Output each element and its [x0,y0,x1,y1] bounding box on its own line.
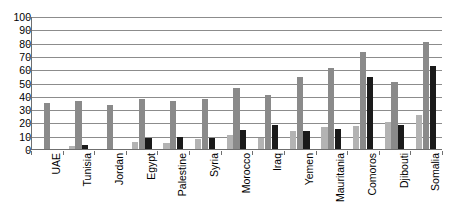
bar [430,66,436,150]
x-axis-tick-label: Tunisia [82,153,93,186]
x-axis-tick-label: Somalia [430,153,441,191]
bar-group [126,17,158,150]
x-axis-tick-mark [252,151,253,155]
x-axis-tick-mark [410,151,411,155]
bar [335,129,341,150]
plot-area [31,17,442,150]
bar-chart: 0102030405060708090100 UAETunisiaJordanE… [0,0,450,214]
bar-group [410,17,442,150]
x-axis-tick-mark [316,151,317,155]
bar-group [221,17,253,150]
bar [398,125,404,150]
bar [209,138,215,150]
bar [44,103,50,150]
bar [321,127,327,150]
bar [265,95,271,150]
x-axis-tick-mark [94,151,95,155]
x-axis-tick-mark [126,151,127,155]
bar-group [252,17,284,150]
bar [177,137,183,150]
x-axis-tick-label: Yemen [304,153,315,185]
x-axis-tick-mark [379,151,380,155]
bar [416,115,422,150]
bar [328,68,334,150]
x-axis-tick-label: Jordan [114,153,125,185]
bar [227,135,233,150]
bar [297,77,303,150]
bar [170,101,176,150]
bar-group [189,17,221,150]
bar [391,82,397,150]
bar-group [316,17,348,150]
x-axis-tick-mark [31,151,32,155]
x-axis-tick-label: Djibouti [399,153,410,188]
bar [132,142,138,150]
bar-group [157,17,189,150]
bar-group [379,17,411,150]
bar [385,122,391,150]
x-axis-tick-mark [63,151,64,155]
bar [75,101,81,150]
bar [202,99,208,150]
bar-group [94,17,126,150]
bar-group [63,17,95,150]
bar-group [284,17,316,150]
x-axis-tick-label: Morocco [241,153,252,193]
bar [139,99,145,150]
bar [367,77,373,150]
bar [163,143,169,150]
bar [303,131,309,150]
bar [69,146,75,150]
x-axis-tick-mark [347,151,348,155]
bar [107,105,113,150]
bar [240,130,246,150]
bar [360,52,366,150]
x-axis-tick-label: Egypt [146,153,157,180]
bar [195,139,201,150]
x-axis: UAETunisiaJordanEgyptPalestineSyriaMoroc… [31,151,442,214]
x-axis-tick-label: Iraq [272,153,283,171]
bar [258,138,264,150]
x-axis-tick-label: Palestine [177,153,188,196]
x-axis-tick-label: Mauritania [335,153,346,202]
bar [423,42,429,150]
x-axis-tick-mark [284,151,285,155]
x-axis-tick-mark [157,151,158,155]
x-axis-tick-mark [189,151,190,155]
bar [272,125,278,150]
bar [290,131,296,150]
x-axis-tick-label: Syria [209,153,220,177]
x-axis-tick-mark [221,151,222,155]
x-axis-tick-label: Comoros [367,153,378,196]
bar [353,126,359,150]
x-axis-tick-mark [442,151,443,155]
bar-group [31,17,63,150]
bar [145,138,151,150]
bar [233,88,239,151]
bar-group [347,17,379,150]
bar [82,145,88,150]
x-axis-tick-label: UAE [51,153,62,175]
